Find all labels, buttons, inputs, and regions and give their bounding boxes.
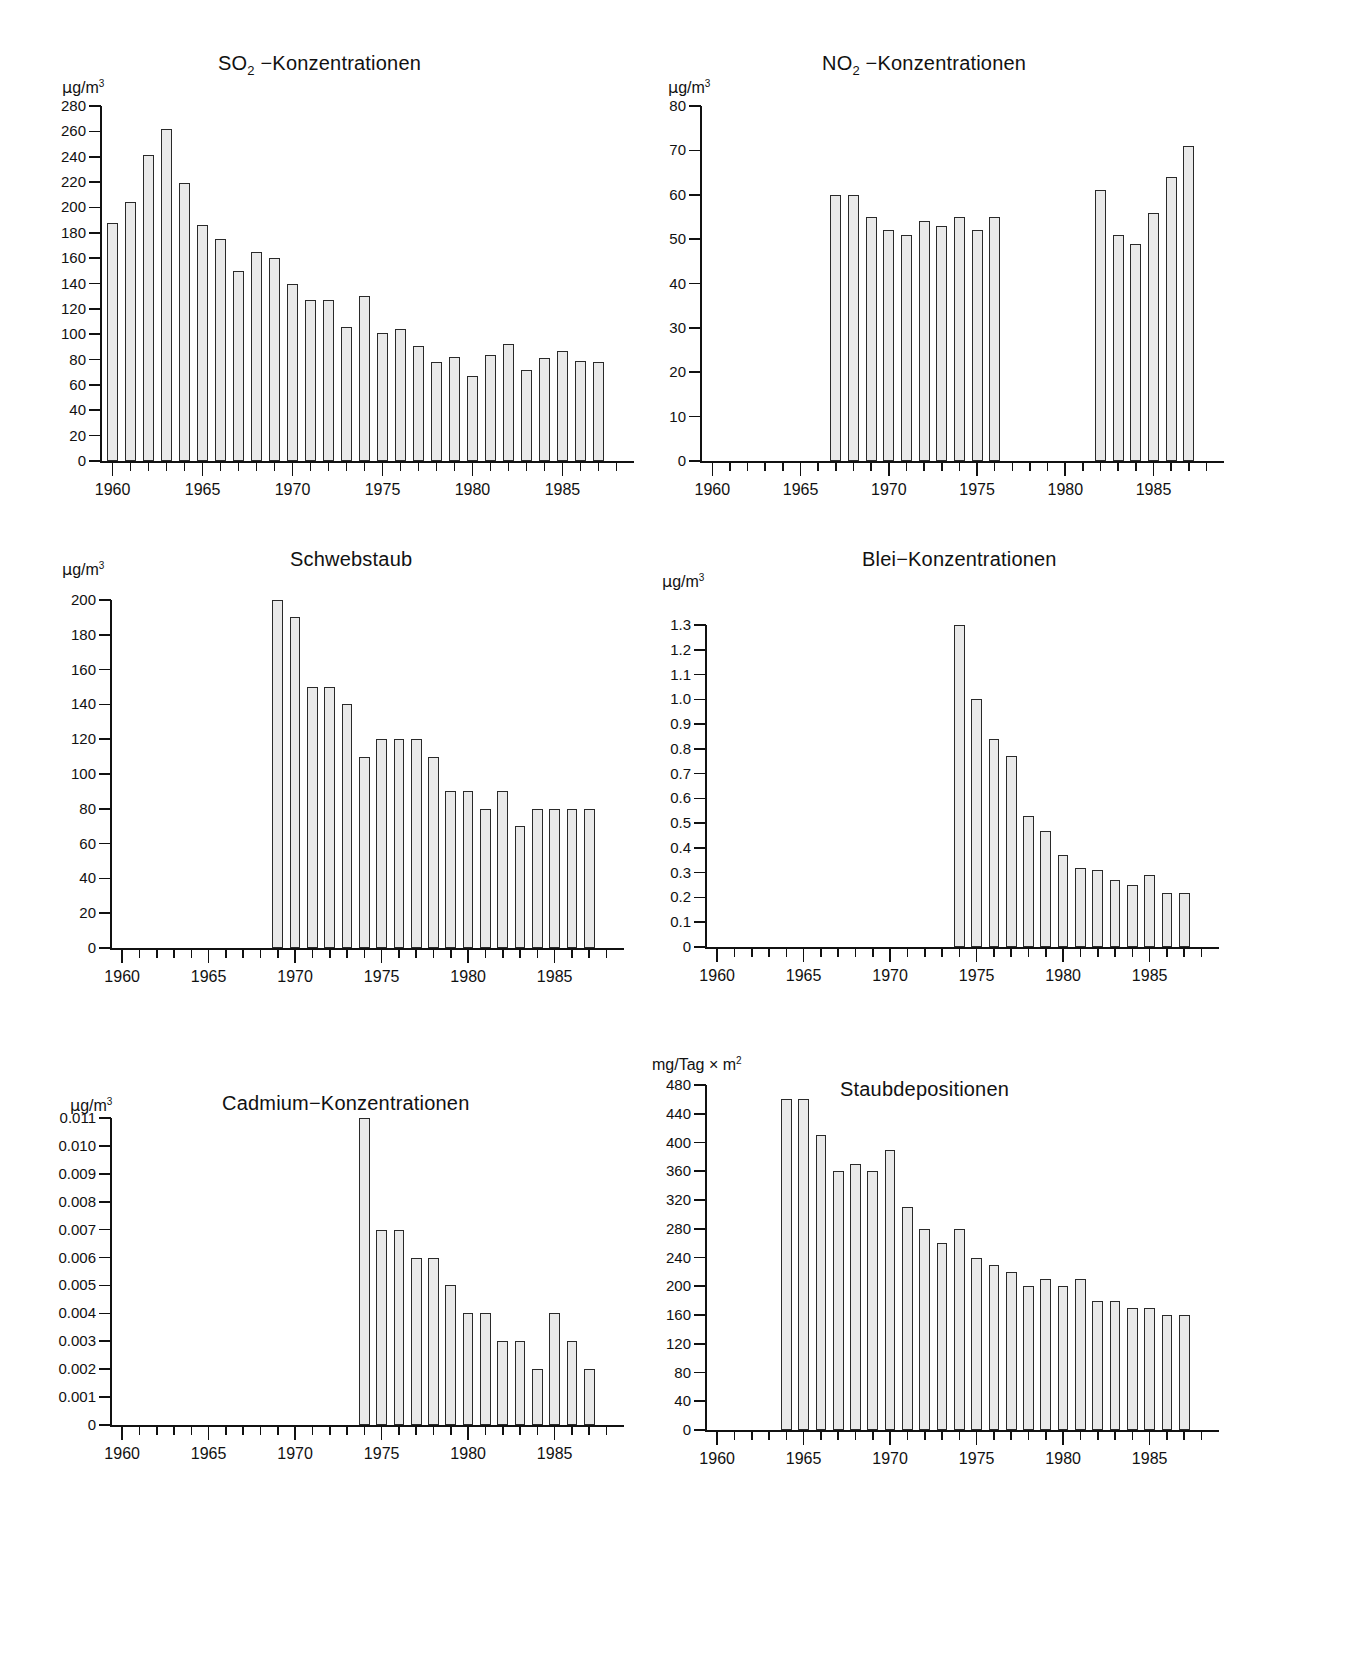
x-tick-mark: [537, 1427, 539, 1435]
x-tick-mark: [924, 949, 926, 957]
y-tick-mark: [694, 773, 706, 775]
bar: [428, 757, 439, 948]
bar: [197, 225, 208, 461]
x-tick-mark: [329, 1427, 331, 1435]
bar: [532, 809, 543, 948]
y-tick-mark: [694, 1257, 706, 1259]
y-tick-mark: [694, 847, 706, 849]
y-tick-label: 160: [50, 662, 96, 677]
x-tick-mark: [173, 950, 175, 958]
bar: [497, 791, 508, 948]
x-tick-mark: [941, 463, 943, 471]
y-tick-label: 0.006: [30, 1250, 96, 1265]
x-tick-mark: [1114, 1432, 1116, 1440]
x-tick-mark: [490, 463, 492, 471]
chart-title-schwebstaub: Schwebstaub: [290, 548, 412, 571]
x-tick-mark: [1188, 463, 1190, 471]
x-tick-mark: [277, 950, 279, 958]
x-tick-mark: [1062, 949, 1064, 962]
bar: [1166, 177, 1177, 461]
y-tick-mark: [694, 748, 706, 750]
y-tick-mark: [694, 624, 706, 626]
x-tick-label: 1980: [1023, 967, 1103, 985]
plot-area-so2: 0204060801001201401601802002202402602801…: [100, 106, 620, 461]
x-tick-mark: [1170, 463, 1172, 471]
x-tick-mark: [747, 463, 749, 471]
bar: [287, 284, 298, 462]
bar: [867, 1171, 878, 1430]
x-tick-mark: [502, 1427, 504, 1435]
bar: [411, 739, 422, 948]
x-tick-mark: [1132, 1432, 1134, 1440]
y-tick-mark: [89, 105, 101, 107]
x-tick-mark: [238, 463, 240, 471]
x-tick-mark: [519, 950, 521, 958]
y-tick-mark: [99, 1229, 111, 1231]
x-tick-mark: [1097, 1432, 1099, 1440]
y-tick-label: 0.4: [645, 840, 691, 855]
bar: [1127, 1308, 1138, 1430]
y-tick-mark: [694, 1084, 706, 1086]
bar: [1075, 868, 1086, 947]
x-tick-mark: [606, 1427, 608, 1435]
bar: [1162, 1315, 1173, 1430]
y-tick-mark: [99, 1396, 111, 1398]
x-tick-label: 1960: [73, 481, 153, 499]
y-tick-label: 50: [650, 231, 686, 246]
y-tick-label: 260: [40, 123, 86, 138]
y-tick-mark: [99, 912, 111, 914]
x-tick-label: 1985: [515, 1445, 595, 1463]
x-tick-mark: [571, 950, 573, 958]
y-tick-mark: [689, 105, 701, 107]
y-axis-unit-no2: μg/m3: [668, 78, 710, 97]
x-tick-mark: [225, 950, 227, 958]
x-tick-mark: [606, 950, 608, 958]
bar: [341, 327, 352, 461]
y-tick-mark: [694, 1142, 706, 1144]
x-tick-mark: [346, 463, 348, 471]
bar: [919, 221, 930, 461]
x-tick-mark: [364, 1427, 366, 1435]
y-tick-mark: [694, 1314, 706, 1316]
y-axis-unit-staub: mg/Tag × m2: [652, 1055, 742, 1074]
x-tick-mark: [924, 1432, 926, 1440]
x-tick-mark: [734, 1432, 736, 1440]
x-tick-mark: [346, 950, 348, 958]
chart-title-cadmium: Cadmium−Konzentrationen: [222, 1092, 470, 1115]
bar: [954, 1229, 965, 1430]
bar: [107, 223, 118, 461]
x-tick-label: 1975: [342, 968, 422, 986]
x-tick-mark: [433, 1427, 435, 1435]
x-tick-mark: [220, 463, 222, 471]
x-tick-label: 1975: [937, 967, 1017, 985]
y-axis-unit-so2: μg/m3: [62, 78, 104, 97]
y-tick-label: 140: [50, 696, 96, 711]
y-tick-label: 0.8: [645, 741, 691, 756]
y-tick-mark: [99, 1201, 111, 1203]
plot-area-blei: 00.10.20.30.40.50.60.70.80.91.01.11.21.3…: [705, 625, 1205, 947]
y-tick-mark: [694, 921, 706, 923]
bar: [1179, 1315, 1190, 1430]
x-tick-mark: [1062, 1432, 1064, 1445]
bar: [394, 739, 405, 948]
y-tick-mark: [694, 1372, 706, 1374]
y-tick-mark: [89, 435, 101, 437]
x-tick-mark: [1100, 463, 1102, 471]
y-tick-label: 0.005: [30, 1277, 96, 1292]
x-tick-mark: [923, 463, 925, 471]
x-tick-mark: [976, 1432, 978, 1445]
x-tick-label: 1965: [169, 1445, 249, 1463]
y-tick-mark: [99, 1368, 111, 1370]
bar: [272, 600, 283, 948]
y-tick-label: 120: [50, 731, 96, 746]
y-axis-line-cadmium: [110, 1118, 112, 1425]
y-tick-label: 240: [40, 149, 86, 164]
y-tick-mark: [689, 150, 701, 152]
x-tick-mark: [888, 463, 890, 476]
y-tick-label: 40: [50, 870, 96, 885]
x-tick-mark: [1097, 949, 1099, 957]
y-tick-mark: [89, 308, 101, 310]
bar: [954, 217, 965, 461]
y-tick-mark: [694, 699, 706, 701]
x-tick-mark: [598, 463, 600, 471]
